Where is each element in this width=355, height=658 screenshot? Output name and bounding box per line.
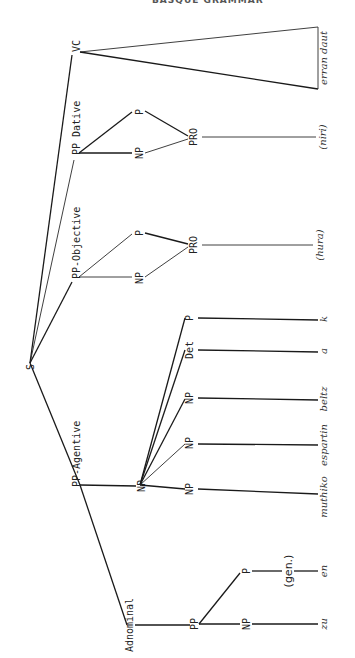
word-k: k <box>318 316 329 322</box>
edge-np2-espartin <box>198 444 318 445</box>
edge-np-np1 <box>140 399 185 485</box>
node-agent-np3: NP <box>184 483 195 495</box>
node-objective-pro: PRO <box>188 236 199 254</box>
node-adn-np: NP <box>241 618 252 630</box>
genitive-note: (gen.) <box>282 555 295 588</box>
node-objective-np: NP <box>134 272 145 284</box>
node-s: S <box>25 364 36 370</box>
word-erran-daut: erran daut <box>318 30 329 85</box>
node-adn-p: P <box>241 568 252 574</box>
word-a: a <box>318 348 329 354</box>
edge-objective-np-pro <box>145 247 188 277</box>
node-adnominal: Adnominal <box>124 598 135 652</box>
edge-np1-beltz <box>198 398 318 400</box>
edge-vc-top <box>80 27 318 52</box>
node-dative-p: P <box>134 109 145 115</box>
node-agent-np: NP <box>136 480 147 492</box>
node-dative-np: NP <box>134 147 145 159</box>
edge-pp-p <box>199 573 240 624</box>
tree-nodes: S VC PP Dative P NP PRO PP-Objective P N… <box>25 40 295 652</box>
edge-det-a <box>198 350 318 352</box>
word-hura: (hura) <box>314 229 325 261</box>
node-pp-dative: PP Dative <box>71 101 82 155</box>
node-agent-p: P <box>184 315 195 321</box>
edge-np-p <box>140 318 185 485</box>
edge-agentive-np <box>80 485 136 486</box>
node-adn-pp: PP <box>189 618 200 630</box>
word-espartin: espartin <box>318 424 329 466</box>
edge-objective-p <box>79 234 132 277</box>
word-zu: zu <box>318 618 329 631</box>
node-dative-pro: PRO <box>188 128 199 146</box>
edge-agentive-adnominal <box>80 485 127 625</box>
word-niri: (niri) <box>317 124 328 150</box>
word-muthiko: muthiko <box>318 476 329 518</box>
edge-vc-bottom <box>80 52 318 89</box>
node-pp-agentive: PP-Agentive <box>71 421 82 487</box>
edge-s-vc <box>30 55 72 363</box>
edge-dative-p <box>79 112 132 153</box>
edge-dative-np-pro <box>145 139 188 153</box>
syntax-tree-diagram: S VC PP Dative P NP PRO PP-Objective P N… <box>0 0 355 658</box>
word-beltz: beltz <box>318 386 329 412</box>
edge-p-k <box>198 318 318 320</box>
edge-objective-p-pro <box>145 233 188 244</box>
node-pp-objective: PP-Objective <box>71 207 82 279</box>
node-agent-np2: NP <box>184 437 195 449</box>
edge-np3-muthiko <box>198 489 318 494</box>
edge-s-ppdative <box>30 160 74 363</box>
node-agent-np1: NP <box>184 392 195 404</box>
node-agent-det: Det <box>184 341 195 359</box>
tree-words: erran daut (niri) (hura) k a beltz espar… <box>314 30 329 631</box>
node-vc: VC <box>71 40 82 52</box>
word-en: en <box>318 565 329 577</box>
edge-dative-p-pro <box>145 111 188 136</box>
edge-s-ppobjective <box>30 282 72 363</box>
node-objective-p: P <box>134 230 145 236</box>
